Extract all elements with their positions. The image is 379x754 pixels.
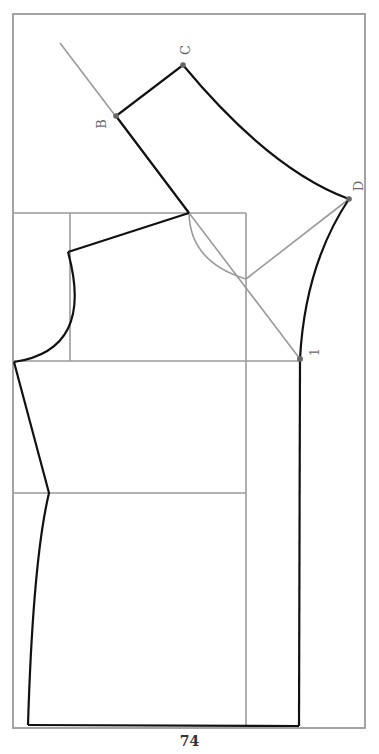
page-number: 74 xyxy=(0,733,379,749)
sleeve-outline xyxy=(116,65,349,213)
labels: B C D 1 xyxy=(94,45,366,356)
hem-line xyxy=(28,725,299,726)
side-seam xyxy=(299,359,300,726)
point-1 xyxy=(297,356,303,362)
guide-to-D xyxy=(246,199,349,279)
point-C xyxy=(180,62,186,68)
point-D xyxy=(346,196,352,202)
pattern-outline xyxy=(14,65,349,726)
center-front-line xyxy=(14,362,49,725)
label-D: D xyxy=(351,181,366,191)
outer-frame xyxy=(13,14,365,728)
point-B xyxy=(113,113,119,119)
label-C: C xyxy=(178,45,193,55)
label-B: B xyxy=(94,119,109,129)
points xyxy=(113,62,352,362)
label-1: 1 xyxy=(307,348,322,356)
neckline-curve xyxy=(14,252,75,362)
shoulder-line xyxy=(68,213,189,252)
underarm-curve xyxy=(300,199,349,359)
pattern-diagram: B C D 1 xyxy=(0,0,379,754)
